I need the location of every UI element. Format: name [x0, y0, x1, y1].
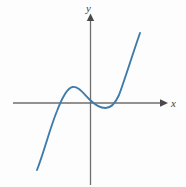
y-axis-arrowhead	[87, 14, 94, 22]
plot-canvas	[0, 0, 186, 187]
cubic-curve	[37, 33, 140, 170]
y-axis-label: y	[86, 3, 91, 14]
x-axis-arrowhead	[160, 99, 168, 106]
figure-container: y x	[0, 0, 186, 187]
x-axis-label: x	[171, 98, 176, 109]
